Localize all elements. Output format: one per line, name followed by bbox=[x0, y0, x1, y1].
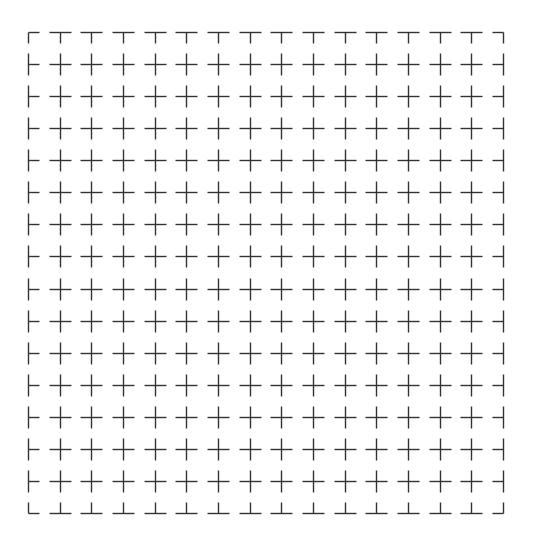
cross-mark-icon bbox=[50, 471, 72, 493]
cross-mark-icon bbox=[113, 375, 135, 397]
cross-mark-icon bbox=[145, 150, 167, 172]
cross-mark-icon bbox=[303, 246, 325, 268]
cross-mark-icon bbox=[303, 150, 325, 172]
tee-top-mark-icon bbox=[303, 33, 325, 44]
cross-mark-icon bbox=[461, 118, 483, 140]
cross-mark-icon bbox=[398, 439, 420, 461]
cross-mark-icon bbox=[208, 439, 230, 461]
cross-mark-icon bbox=[240, 407, 262, 429]
tee-left-mark-icon bbox=[29, 471, 40, 493]
tee-right-mark-icon bbox=[493, 182, 504, 204]
cross-mark-icon bbox=[398, 246, 420, 268]
cross-mark-icon bbox=[208, 86, 230, 108]
corner-top-left-mark-icon bbox=[29, 33, 40, 44]
cross-mark-icon bbox=[208, 375, 230, 397]
cross-mark-icon bbox=[398, 471, 420, 493]
cross-mark-icon bbox=[430, 86, 452, 108]
cross-mark-icon bbox=[240, 214, 262, 236]
cross-mark-icon bbox=[461, 279, 483, 301]
cross-mark-icon bbox=[271, 471, 293, 493]
cross-mark-icon bbox=[240, 182, 262, 204]
cross-mark-icon bbox=[176, 311, 198, 333]
cross-mark-icon bbox=[303, 375, 325, 397]
cross-mark-icon bbox=[430, 279, 452, 301]
tee-bottom-mark-icon bbox=[176, 503, 198, 514]
cross-mark-icon bbox=[145, 471, 167, 493]
cross-mark-icon bbox=[208, 54, 230, 76]
cross-mark-icon bbox=[461, 439, 483, 461]
cross-mark-icon bbox=[303, 118, 325, 140]
cross-mark-icon bbox=[208, 182, 230, 204]
cross-mark-icon bbox=[303, 439, 325, 461]
cross-mark-icon bbox=[366, 375, 388, 397]
cross-mark-icon bbox=[81, 343, 103, 365]
tee-top-mark-icon bbox=[335, 33, 357, 44]
tee-bottom-mark-icon bbox=[50, 503, 72, 514]
cross-mark-icon bbox=[303, 54, 325, 76]
cross-mark-icon bbox=[176, 375, 198, 397]
cross-mark-icon bbox=[240, 150, 262, 172]
cross-mark-icon bbox=[398, 214, 420, 236]
cross-mark-icon bbox=[81, 439, 103, 461]
cross-mark-icon bbox=[398, 375, 420, 397]
cross-mark-icon bbox=[461, 246, 483, 268]
cross-mark-icon bbox=[145, 118, 167, 140]
tee-left-mark-icon bbox=[29, 343, 40, 365]
cross-mark-icon bbox=[398, 311, 420, 333]
cross-mark-icon bbox=[303, 407, 325, 429]
cross-mark-icon bbox=[208, 246, 230, 268]
tee-left-mark-icon bbox=[29, 150, 40, 172]
cross-mark-icon bbox=[430, 439, 452, 461]
tee-right-mark-icon bbox=[493, 471, 504, 493]
tee-right-mark-icon bbox=[493, 439, 504, 461]
cross-mark-icon bbox=[113, 311, 135, 333]
tee-top-mark-icon bbox=[81, 33, 103, 44]
cross-mark-icon bbox=[50, 214, 72, 236]
cross-mark-icon bbox=[113, 150, 135, 172]
cross-mark-icon bbox=[366, 407, 388, 429]
cross-mark-icon bbox=[50, 150, 72, 172]
cross-mark-icon bbox=[271, 182, 293, 204]
cross-mark-icon bbox=[113, 118, 135, 140]
cross-mark-icon bbox=[81, 375, 103, 397]
cross-mark-icon bbox=[113, 279, 135, 301]
cross-mark-icon bbox=[398, 182, 420, 204]
cross-mark-icon bbox=[176, 118, 198, 140]
tee-left-mark-icon bbox=[29, 54, 40, 76]
cross-mark-icon bbox=[366, 54, 388, 76]
cross-mark-icon bbox=[50, 246, 72, 268]
cross-mark-icon bbox=[398, 343, 420, 365]
cross-mark-icon bbox=[81, 86, 103, 108]
corner-top-right-mark-icon bbox=[493, 33, 504, 44]
cross-mark-icon bbox=[335, 214, 357, 236]
tee-right-mark-icon bbox=[493, 311, 504, 333]
cross-mark-icon bbox=[113, 54, 135, 76]
tee-right-mark-icon bbox=[493, 375, 504, 397]
cross-mark-icon bbox=[208, 471, 230, 493]
cross-mark-icon bbox=[145, 407, 167, 429]
cross-mark-icon bbox=[366, 150, 388, 172]
cross-mark-icon bbox=[81, 214, 103, 236]
tee-top-mark-icon bbox=[50, 33, 72, 44]
tee-right-mark-icon bbox=[493, 214, 504, 236]
cross-mark-icon bbox=[176, 54, 198, 76]
cross-mark-icon bbox=[366, 439, 388, 461]
cross-mark-icon bbox=[366, 246, 388, 268]
cross-mark-icon bbox=[335, 246, 357, 268]
tee-right-mark-icon bbox=[493, 246, 504, 268]
cross-mark-icon bbox=[208, 150, 230, 172]
tee-left-mark-icon bbox=[29, 375, 40, 397]
cross-mark-icon bbox=[81, 246, 103, 268]
tee-top-mark-icon bbox=[240, 33, 262, 44]
cross-mark-icon bbox=[335, 86, 357, 108]
tee-bottom-mark-icon bbox=[145, 503, 167, 514]
cross-mark-icon bbox=[271, 343, 293, 365]
cross-mark-icon bbox=[335, 279, 357, 301]
cross-mark-icon bbox=[430, 118, 452, 140]
cross-mark-icon bbox=[335, 407, 357, 429]
tee-top-mark-icon bbox=[398, 33, 420, 44]
cross-mark-icon bbox=[430, 150, 452, 172]
tee-bottom-mark-icon bbox=[335, 503, 357, 514]
cross-mark-icon bbox=[145, 54, 167, 76]
cross-mark-icon bbox=[81, 54, 103, 76]
